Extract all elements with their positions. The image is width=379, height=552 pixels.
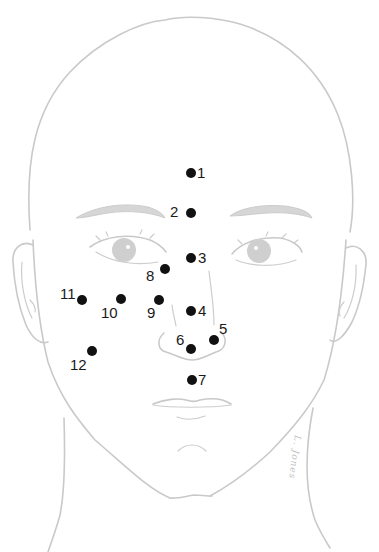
point-marker-dot [160,264,170,274]
point-label: 4 [198,303,206,318]
point-label: 10 [101,305,118,320]
point-marker-dot [154,295,164,305]
left-eyebrow [76,205,165,218]
right-eyebrow [230,205,312,218]
nose-bridge-left [172,305,176,326]
chin-crease [178,445,206,451]
face-diagram: 1 2 3 4 5 6 7 8 9 10 11 12 L. Jones [0,0,379,552]
right-ear [330,246,366,341]
left-eye-iris [112,238,136,262]
point-label: 11 [60,286,76,301]
point-label: 7 [198,372,206,387]
point-marker-dot [116,294,126,304]
point-label: 8 [146,268,154,283]
point-label: 6 [176,332,184,347]
point-label: 12 [70,357,87,372]
face-outline-drawing [0,0,379,552]
right-cheek-outline [210,240,346,496]
point-label: 9 [147,305,155,320]
upper-lip [153,399,231,404]
point-marker-dot [186,168,196,178]
point-label: 1 [197,165,205,180]
neck-left [48,418,65,552]
point-marker-dot [186,253,196,263]
point-label: 5 [219,321,227,336]
left-eye-highlight [126,245,130,249]
lower-lip [177,416,205,419]
left-ear-inner [22,262,36,318]
lip-line [153,405,231,407]
point-marker-dot [187,375,197,385]
right-eye-highlight [254,246,258,250]
nose-bridge-right [209,271,214,325]
neck-right [307,408,330,548]
right-eye-lower-lid [236,260,296,265]
head-outline [29,17,353,232]
point-label: 2 [170,204,178,219]
point-marker-dot [209,335,219,345]
point-marker-dot [87,346,97,356]
point-marker-dot [186,344,196,354]
chin-outline [170,495,212,498]
point-marker-dot [77,295,87,305]
point-label: 3 [198,250,206,265]
left-ear [13,244,48,343]
point-marker-dot [186,208,196,218]
point-marker-dot [186,306,196,316]
right-eye-iris [247,239,271,263]
